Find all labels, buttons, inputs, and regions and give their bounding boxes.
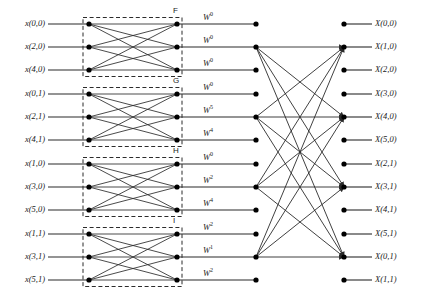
output-node-1 [341,44,346,49]
output-node-3 [341,91,346,96]
output-label-5: X(5,0) [375,135,397,144]
input-label-5: x(4,1) [25,135,45,144]
block-label-f: F [173,7,178,15]
mid-node-11 [253,277,258,282]
mid-node-10 [253,254,258,259]
output-node-11 [341,277,346,282]
stage1-in-node-4 [86,114,91,119]
block-label-h: H [173,147,179,155]
stage1-in-node-11 [86,277,91,282]
input-label-1: x(2,0) [25,42,45,51]
output-node-10 [341,254,346,259]
output-label-8: X(4,1) [375,205,397,214]
stage1-out-node-2 [174,67,179,72]
mid-node-3 [253,91,258,96]
input-label-4: x(2,1) [25,112,45,121]
input-label-8: x(5,0) [25,205,45,214]
stage1-out-node-1 [174,44,179,49]
output-lines [344,24,372,280]
stage1-in-node-7 [86,184,91,189]
output-node-4 [341,114,346,119]
output-label-6: X(2,1) [375,159,397,168]
twiddle-label-8: W4 [203,197,213,207]
output-node-0 [341,21,346,26]
stage2-crossbar-edges [256,47,344,257]
input-label-9: x(1,1) [25,229,45,238]
twiddle-label-7: W2 [203,174,213,184]
stage1-out-node-3 [174,91,179,96]
twiddle-label-11: W2 [203,267,213,277]
stage1-out-node-6 [174,161,179,166]
input-label-6: x(1,0) [25,159,45,168]
output-node-6 [341,161,346,166]
output-label-7: X(3,1) [375,182,397,191]
twiddle-label-1: W0 [203,34,213,44]
input-label-7: x(3,0) [25,182,45,191]
stage1-out-node-11 [174,277,179,282]
output-label-4: X(4,0) [375,112,397,121]
stage1-in-node-9 [86,231,91,236]
stage1-out-node-0 [174,21,179,26]
input-label-0: x(0,0) [25,19,45,28]
mid-node-1 [253,44,258,49]
output-node-2 [341,67,346,72]
stage1-in-node-0 [86,21,91,26]
input-label-11: x(5,1) [25,275,45,284]
stage1-butterfly-edges [89,24,177,280]
output-label-3: X(3,0) [375,89,397,98]
mid-node-0 [253,21,258,26]
stage1-in-node-3 [86,91,91,96]
stage1-out-node-9 [174,231,179,236]
stage1-in-node-1 [86,44,91,49]
output-node-7 [341,184,346,189]
mid-node-5 [253,137,258,142]
output-label-2: X(2,0) [375,65,397,74]
stage1-in-node-10 [86,254,91,259]
stage1-dashed-boxes [83,18,182,287]
output-label-10: X(0,1) [375,252,397,261]
output-label-1: X(1,0) [375,42,397,51]
twiddle-label-0: W0 [203,11,213,21]
stage1-out-node-4 [174,114,179,119]
stage1-out-node-8 [174,207,179,212]
stage1-out-node-5 [174,137,179,142]
mid-node-7 [253,184,258,189]
twiddle-label-3: W0 [203,81,213,91]
stage1-out-node-7 [174,184,179,189]
input-label-2: x(4,0) [25,65,45,74]
stage1-in-node-8 [86,207,91,212]
output-label-9: X(5,1) [375,229,397,238]
twiddle-label-5: W4 [203,127,213,137]
stage1-in-node-6 [86,161,91,166]
input-label-3: x(0,1) [25,89,45,98]
mid-node-6 [253,161,258,166]
block-label-i: I [173,217,175,225]
output-label-0: X(0,0) [375,19,397,28]
output-node-9 [341,231,346,236]
mid-node-4 [253,114,258,119]
stage1-in-node-2 [86,67,91,72]
mid-node-8 [253,207,258,212]
twiddle-label-9: W2 [203,221,213,231]
input-label-10: x(3,1) [25,252,45,261]
output-node-5 [341,137,346,142]
stage1-in-node-5 [86,137,91,142]
output-label-11: X(1,1) [375,275,397,284]
stage1-out-node-10 [174,254,179,259]
twiddle-label-4: W5 [203,104,213,114]
fft-signal-flow-figure: FGHIx(0,0)x(2,0)x(4,0)x(0,1)x(2,1)x(4,1)… [0,0,425,292]
output-node-8 [341,207,346,212]
twiddle-label-10: W1 [203,244,213,254]
twiddle-label-6: W0 [203,151,213,161]
block-label-g: G [173,77,179,85]
mid-node-2 [253,67,258,72]
mid-node-9 [253,231,258,236]
twiddle-lines [177,24,256,280]
twiddle-label-2: W0 [203,57,213,67]
